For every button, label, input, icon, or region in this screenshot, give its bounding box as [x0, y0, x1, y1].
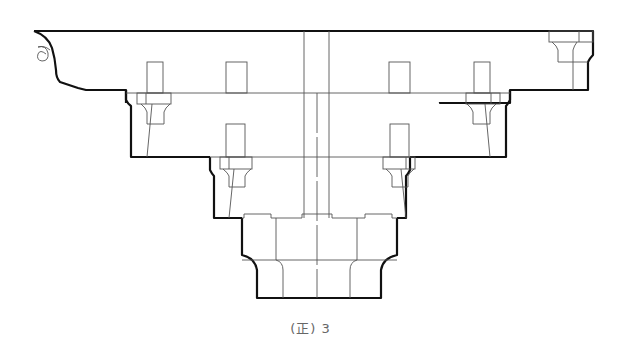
tier-1-outline-right [410, 90, 510, 157]
base-outline [242, 218, 397, 298]
top-posts [147, 62, 490, 93]
figure-caption: (正) 3 [0, 318, 621, 337]
tier-1-outline [126, 90, 210, 157]
mid-posts [226, 124, 409, 157]
horizontal-lines [126, 93, 510, 260]
beam-end-bracket-right [549, 31, 593, 90]
bracket-elevation-drawing [0, 0, 621, 364]
bracket-block-left-1 [137, 93, 171, 157]
bracket-block-left-2 [220, 157, 252, 218]
base-blocks [242, 214, 397, 298]
center-column [304, 31, 329, 298]
scroll-curl-icon [38, 47, 49, 61]
